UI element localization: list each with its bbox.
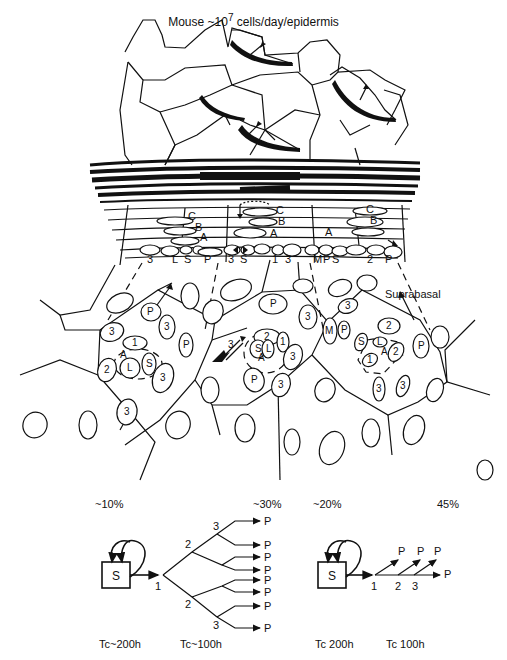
gen-3: 3 (412, 580, 418, 592)
stem-cell-label: S (328, 569, 336, 583)
linear-lineage-scheme: ~20% 45% S 1 2 3 P P P P Tc 200h Tc 100h (0, 0, 507, 660)
progeny-p: P (417, 545, 424, 557)
gen-1: 1 (371, 580, 377, 592)
stem-cycle-time: Tc 200h (315, 638, 354, 650)
progeny-p: P (434, 545, 441, 557)
gen-2: 2 (395, 580, 401, 592)
progeny-cycle-time: Tc 100h (386, 638, 425, 650)
progeny-percent: 45% (437, 498, 459, 510)
stem-percent: ~20% (313, 498, 341, 510)
progeny-p: P (444, 568, 451, 580)
progeny-p: P (398, 545, 405, 557)
